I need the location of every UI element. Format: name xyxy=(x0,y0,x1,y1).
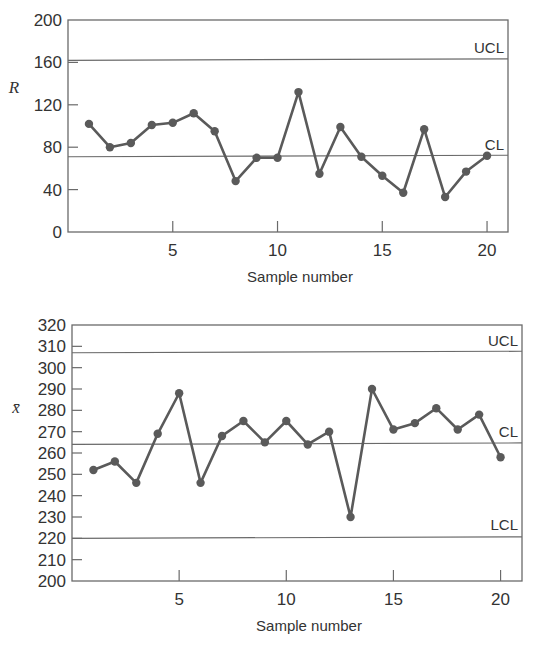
x-tick-label: 10 xyxy=(277,590,296,609)
data-point xyxy=(282,417,290,425)
mean-chart: 2002102202302402502602702802903003103205… xyxy=(0,310,537,647)
data-point xyxy=(454,425,462,433)
data-point xyxy=(441,193,449,201)
data-point xyxy=(111,457,119,465)
data-point xyxy=(483,151,491,159)
ucl-line xyxy=(68,59,508,61)
mean-chart-plot-frame xyxy=(72,325,522,581)
x-tick-label: 15 xyxy=(373,241,392,260)
y-tick-label: 230 xyxy=(38,508,66,527)
cl-line xyxy=(72,443,522,445)
y-tick-label: 310 xyxy=(38,337,66,356)
ucl-label: UCL xyxy=(488,332,518,349)
mean-chart-x-axis: 5101520 xyxy=(174,570,510,609)
data-point xyxy=(432,404,440,412)
data-point xyxy=(475,410,483,418)
range-chart-x-axis: 5101520 xyxy=(168,221,496,260)
data-point xyxy=(175,389,183,397)
y-tick-label: 220 xyxy=(38,529,66,548)
data-point xyxy=(294,88,302,96)
mean-chart-y-axis: 200210220230240250260270280290300310320 xyxy=(38,316,82,591)
data-point xyxy=(420,125,428,133)
range-chart-y-axis: 04080120160200 xyxy=(34,11,78,242)
mean-chart-y-axis-title: x̄ xyxy=(11,398,20,417)
data-point xyxy=(89,466,97,474)
data-point xyxy=(127,139,135,147)
data-point xyxy=(218,432,226,440)
x-tick-label: 5 xyxy=(168,241,177,260)
mean-chart-control-limits: UCLCLLCL xyxy=(72,332,522,539)
data-point xyxy=(462,167,470,175)
data-point xyxy=(368,385,376,393)
data-point xyxy=(132,479,140,487)
data-point xyxy=(148,121,156,129)
range-chart-x-axis-title: Sample number xyxy=(247,268,353,285)
data-point xyxy=(231,177,239,185)
data-point xyxy=(196,479,204,487)
data-point xyxy=(210,127,218,135)
x-tick-label: 20 xyxy=(478,241,497,260)
cl-label: CL xyxy=(485,136,504,153)
y-tick-label: 120 xyxy=(34,96,62,115)
cl-line xyxy=(68,155,508,157)
data-point xyxy=(304,440,312,448)
data-point xyxy=(239,417,247,425)
y-tick-label: 250 xyxy=(38,465,66,484)
x-tick-label: 15 xyxy=(384,590,403,609)
data-point xyxy=(190,109,198,117)
ucl-line xyxy=(72,351,522,353)
data-point xyxy=(106,143,114,151)
y-tick-label: 0 xyxy=(53,223,62,242)
y-tick-label: 260 xyxy=(38,444,66,463)
data-point xyxy=(315,170,323,178)
y-tick-label: 240 xyxy=(38,487,66,506)
data-point xyxy=(411,419,419,427)
data-point xyxy=(325,427,333,435)
data-point xyxy=(85,120,93,128)
y-tick-label: 200 xyxy=(38,572,66,591)
data-point xyxy=(273,154,281,162)
mean-chart-data-points xyxy=(89,385,505,521)
range-chart-y-axis-title: R xyxy=(8,78,20,97)
y-tick-label: 160 xyxy=(34,53,62,72)
data-point xyxy=(336,123,344,131)
x-tick-label: 20 xyxy=(491,590,510,609)
y-tick-label: 80 xyxy=(43,138,62,157)
y-tick-label: 300 xyxy=(38,359,66,378)
y-tick-label: 320 xyxy=(38,316,66,335)
data-point xyxy=(399,189,407,197)
y-tick-label: 200 xyxy=(34,11,62,30)
data-point xyxy=(252,154,260,162)
data-point xyxy=(496,453,504,461)
y-tick-label: 280 xyxy=(38,401,66,420)
y-tick-label: 290 xyxy=(38,380,66,399)
data-point xyxy=(389,425,397,433)
y-tick-label: 270 xyxy=(38,423,66,442)
y-tick-label: 210 xyxy=(38,551,66,570)
range-chart-series-line xyxy=(89,92,487,197)
data-point xyxy=(357,153,365,161)
data-point xyxy=(169,119,177,127)
x-tick-label: 5 xyxy=(174,590,183,609)
y-tick-label: 40 xyxy=(43,181,62,200)
cl-label: CL xyxy=(499,423,518,440)
data-point xyxy=(378,172,386,180)
mean-chart-x-axis-title: Sample number xyxy=(256,617,362,634)
lcl-line xyxy=(72,537,522,539)
data-point xyxy=(346,513,354,521)
x-tick-label: 10 xyxy=(268,241,287,260)
data-point xyxy=(261,438,269,446)
data-point xyxy=(154,430,162,438)
ucl-label: UCL xyxy=(474,39,504,56)
range-chart: 040801201602005101520Sample numberRUCLCL xyxy=(0,0,537,300)
lcl-label: LCL xyxy=(490,516,518,533)
